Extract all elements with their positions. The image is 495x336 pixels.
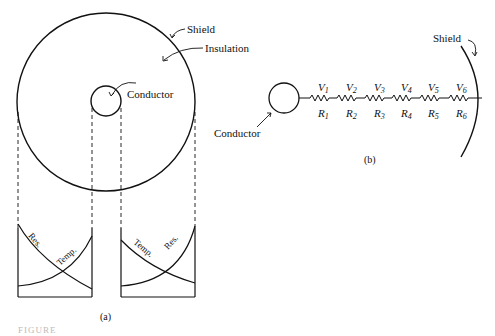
projection-lines — [18, 108, 195, 228]
conductor-circle-b — [269, 83, 299, 113]
caption-a: (a) — [100, 311, 111, 323]
conductor-label-b: Conductor — [214, 127, 261, 139]
caption-b: (b) — [364, 154, 376, 166]
conductor-label-a: Conductor — [127, 88, 174, 100]
shield-arrow-b — [468, 40, 476, 55]
resistor-label-2: R2 — [345, 107, 357, 121]
voltage-label-6: V6 — [456, 81, 467, 95]
conductor-arrow-b — [257, 113, 271, 127]
voltage-label-4: V4 — [401, 81, 412, 95]
resistor-chain — [299, 95, 482, 101]
resistor-label-1: R1 — [317, 107, 329, 121]
voltage-label-2: V2 — [346, 81, 357, 95]
shield-circle — [17, 13, 195, 191]
shield-label-b: Shield — [433, 32, 462, 44]
voltage-label-3: V3 — [374, 81, 385, 95]
cable-insulation-diagram: Shield Insulation Conductor Res. Temp. T… — [0, 0, 495, 336]
conductor-circle — [91, 86, 121, 116]
temp-label-right: Temp. — [132, 237, 156, 259]
panel-a — [17, 13, 203, 297]
voltage-label-1: V1 — [318, 81, 329, 95]
voltage-label-5: V5 — [428, 81, 439, 95]
panel-b — [257, 40, 482, 157]
insulation-label: Insulation — [205, 42, 249, 54]
res-curve-left — [18, 224, 92, 289]
res-label-left: Res. — [26, 231, 44, 249]
res-curve-right — [121, 226, 195, 286]
resistor-label-6: R6 — [455, 107, 467, 121]
resistor-label-4: R4 — [400, 107, 412, 121]
temp-label-left: Temp. — [55, 245, 79, 268]
shield-label-a: Shield — [187, 23, 216, 35]
figure-label: FIGURE — [18, 325, 57, 335]
res-label-right: Res. — [162, 233, 180, 251]
voltage-labels: V1 V2 V3 V4 V5 V6 — [318, 81, 467, 95]
resistor-label-5: R5 — [427, 107, 439, 121]
resistor-labels: R1 R2 R3 R4 R5 R6 — [317, 107, 467, 121]
right-graph — [121, 226, 195, 297]
resistor-label-3: R3 — [373, 107, 385, 121]
shield-arc-b — [461, 46, 478, 157]
